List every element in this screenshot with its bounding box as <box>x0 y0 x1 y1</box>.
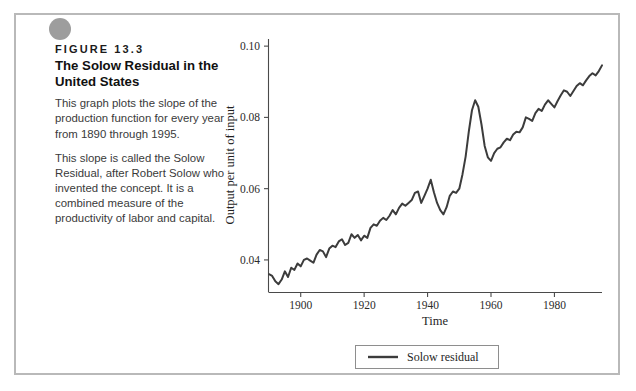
figure-panel: FIGURE 13.3 The Solow Residual in the Un… <box>14 13 620 375</box>
x-axis-title: Time <box>422 314 448 328</box>
y-tick-label: 0.10 <box>240 40 260 52</box>
chart-area: 0.040.060.080.10 19001920194019601980 Ou… <box>16 15 622 377</box>
legend-label-solow-residual: Solow residual <box>407 350 479 364</box>
solow-residual-line-chart: 0.040.060.080.10 19001920194019601980 Ou… <box>16 15 622 377</box>
x-tick-label: 1900 <box>289 299 312 311</box>
solow-residual-series <box>269 65 602 284</box>
x-tick-label: 1920 <box>353 299 376 311</box>
y-tick-label: 0.04 <box>240 254 260 266</box>
x-tick-group: 19001920194019601980 <box>289 292 566 311</box>
x-tick-label: 1940 <box>416 299 439 311</box>
y-axis: 0.040.060.080.10 <box>240 39 269 292</box>
chart-legend: Solow residual <box>356 346 499 369</box>
decorative-dot <box>49 18 71 40</box>
y-tick-label: 0.08 <box>240 111 260 123</box>
x-tick-label: 1980 <box>543 299 566 311</box>
y-axis-title: Output per unit of input <box>223 105 237 224</box>
x-tick-label: 1960 <box>480 299 503 311</box>
x-axis: 19001920194019601980 <box>269 292 603 311</box>
y-tick-group: 0.040.060.080.10 <box>240 40 269 266</box>
y-tick-label: 0.06 <box>240 183 260 195</box>
